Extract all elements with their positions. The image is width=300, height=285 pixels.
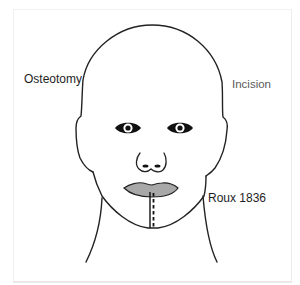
face-diagram bbox=[0, 0, 300, 285]
neck-left bbox=[86, 198, 102, 262]
right-eye bbox=[167, 123, 193, 134]
osteotomy-label: Osteotomy bbox=[24, 73, 82, 85]
roux-label: Roux 1836 bbox=[208, 192, 266, 204]
head-outline bbox=[76, 25, 227, 176]
lips bbox=[124, 183, 178, 197]
incision-label: Incision bbox=[232, 79, 271, 91]
left-eye bbox=[115, 123, 141, 134]
neck-right bbox=[203, 196, 217, 262]
nose bbox=[136, 153, 166, 172]
